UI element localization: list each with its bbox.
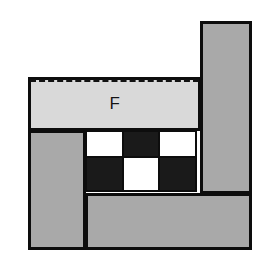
checker-cell-r2-c3 (158, 156, 197, 192)
f-band-dashed-top-edge (30, 79, 199, 82)
checkerboard-group (85, 130, 201, 194)
checker-cell-r2-c1 (85, 156, 124, 192)
region-left-column (28, 130, 86, 250)
checker-cell-r1-c2 (122, 130, 160, 158)
checker-cell-r1-c3 (158, 130, 197, 158)
region-tall-right-bar (200, 21, 252, 194)
checker-cell-r2-c2 (122, 156, 160, 192)
figure-canvas: F (0, 0, 279, 280)
f-region-label: F (110, 95, 121, 112)
checker-cell-r1-c1 (85, 130, 124, 158)
region-bottom-band (85, 193, 252, 250)
